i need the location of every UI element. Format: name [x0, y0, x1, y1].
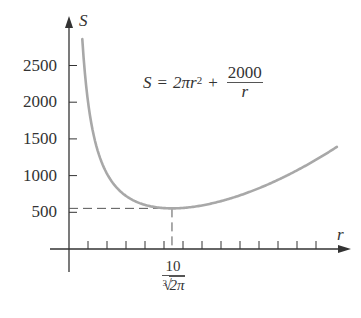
y-axis-arrow-icon: [65, 16, 73, 28]
x-axis-label: r: [337, 225, 344, 245]
minimum-guide-lines: [69, 208, 172, 249]
y-tick-label: 1000: [7, 167, 57, 184]
fraction-numerator: 2000: [227, 64, 263, 83]
formula-plus: +: [208, 73, 218, 93]
y-tick-label: 2000: [7, 93, 57, 110]
y-tick-label: 2500: [7, 57, 57, 74]
formula-annotation: S = 2πr 2 + 2000 r: [143, 64, 263, 101]
minimum-r-label: 10 3 √ 2π: [148, 258, 198, 294]
surface-area-chart: 5001000150020002500 S r S = 2πr 2 + 2000…: [0, 0, 361, 318]
y-axis-label: S: [79, 11, 88, 31]
y-tick-label: 500: [7, 203, 57, 220]
formula-equals: =: [158, 73, 168, 93]
x-axis-arrow-icon: [338, 245, 351, 253]
y-tick-label: 1500: [7, 130, 57, 147]
formula-exponent: 2: [197, 74, 203, 86]
fraction-denominator: r: [242, 83, 249, 101]
formula-lhs: S: [143, 73, 152, 93]
formula-fraction: 2000 r: [227, 64, 263, 101]
radical-sign-icon: √: [163, 276, 171, 294]
min-r-denominator: 3 √ 2π: [161, 276, 184, 294]
formula-term1: 2πr: [173, 73, 197, 93]
